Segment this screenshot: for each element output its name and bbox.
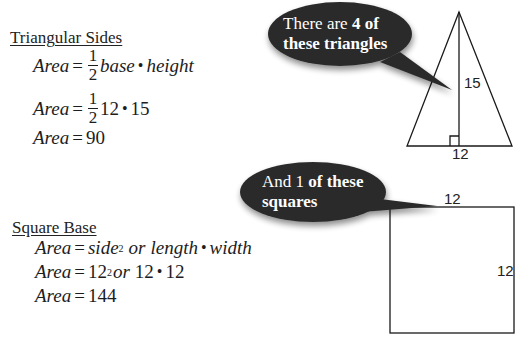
triangle-figure <box>407 12 512 146</box>
eq-or: or <box>129 237 146 259</box>
numerator: 1 <box>89 91 98 107</box>
fraction-one-half: 1 2 <box>88 91 98 126</box>
eq-term: base <box>100 55 135 77</box>
eq-lhs: Area <box>33 55 69 77</box>
multiply-dot: • <box>157 263 163 281</box>
bubble-squares-line2: squares <box>262 192 364 212</box>
eq-sign: = <box>74 285 85 307</box>
bubble-squares-line1: And 1 of these <box>262 172 364 192</box>
eq-sign: = <box>72 127 83 149</box>
multiply-dot: • <box>201 239 207 257</box>
exponent: 2 <box>119 243 124 254</box>
eq-term: 15 <box>131 98 150 120</box>
eq-term: width <box>210 237 252 259</box>
multiply-dot: • <box>138 57 144 75</box>
equation-triangle-result: Area = 90 <box>33 127 105 149</box>
exponent: 2 <box>107 267 112 278</box>
eq-or: or <box>113 261 130 283</box>
eq-result: 144 <box>88 285 117 307</box>
eq-term: 12 <box>100 98 119 120</box>
bubble-triangles-line1: There are 4 of <box>283 14 387 34</box>
square-side-label: 12 <box>497 262 514 279</box>
eq-term: side <box>88 237 119 259</box>
multiply-dot: • <box>122 100 128 118</box>
triangle-height-label: 15 <box>464 74 481 91</box>
bubble-text-bold: 4 of <box>352 14 379 33</box>
denominator: 2 <box>89 67 98 83</box>
triangle-base-label: 12 <box>452 145 469 162</box>
square-figure <box>390 207 514 333</box>
eq-lhs: Area <box>33 98 69 120</box>
bubble-text-bold: of these <box>308 172 363 191</box>
bubble-text-plain: And 1 <box>262 172 308 191</box>
bubble-triangles-line2: these triangles <box>283 34 387 54</box>
bubble-text-bold: these triangles <box>283 34 387 53</box>
denominator: 2 <box>89 110 98 126</box>
equation-triangle-formula: Area = 1 2 base • height <box>33 48 194 83</box>
section-heading-square-base: Square Base <box>12 218 97 238</box>
eq-term: 12 <box>165 261 184 283</box>
bubble-text-bold: squares <box>262 192 317 211</box>
numerator: 1 <box>89 48 98 64</box>
eq-sign: = <box>74 261 85 283</box>
eq-term: height <box>146 55 194 77</box>
eq-lhs: Area <box>35 237 71 259</box>
eq-sign: = <box>72 55 83 77</box>
eq-lhs: Area <box>35 285 71 307</box>
eq-term: 12 <box>88 261 107 283</box>
fraction-one-half: 1 2 <box>88 48 98 83</box>
section-heading-triangular-sides: Triangular Sides <box>10 28 122 48</box>
equation-square-formula: Area = side2 or length • width <box>35 237 252 259</box>
equation-square-substituted: Area = 122 or 12 • 12 <box>35 261 184 283</box>
equation-triangle-substituted: Area = 1 2 12 • 15 <box>33 91 150 126</box>
eq-result: 90 <box>86 127 105 149</box>
eq-lhs: Area <box>35 261 71 283</box>
eq-term: length <box>150 237 198 259</box>
bubble-triangles-text: There are 4 of these triangles <box>283 14 387 54</box>
eq-term: 12 <box>135 261 154 283</box>
eq-sign: = <box>74 237 85 259</box>
eq-lhs: Area <box>33 127 69 149</box>
square-top-label: 12 <box>444 190 461 207</box>
equation-square-result: Area = 144 <box>35 285 116 307</box>
bubble-text-plain: There are <box>283 14 352 33</box>
eq-sign: = <box>72 98 83 120</box>
bubble-squares-text: And 1 of these squares <box>262 172 364 212</box>
